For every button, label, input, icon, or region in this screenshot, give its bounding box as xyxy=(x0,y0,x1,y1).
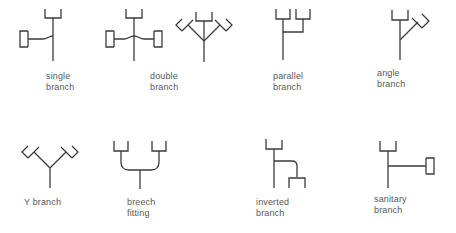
branch-arm-left xyxy=(114,36,134,39)
bell-socket-top xyxy=(380,141,396,151)
branch-arm-right xyxy=(134,36,154,39)
bell-socket-top xyxy=(126,9,142,18)
hub-left-angled-face xyxy=(28,147,39,158)
double-branch-symbol xyxy=(104,6,164,66)
hub-angled xyxy=(422,14,429,28)
parallel-branch-symbol xyxy=(272,6,316,64)
inverted-branch-symbol xyxy=(262,136,320,192)
bell-socket-right xyxy=(152,141,166,151)
bell-socket-left xyxy=(276,9,290,19)
branch-arm-left xyxy=(28,36,53,39)
branch-arm-right-angled xyxy=(204,25,220,41)
hub-right xyxy=(154,31,162,47)
branch-arm-left-angled xyxy=(34,152,50,168)
label-double-branch: double branch xyxy=(150,71,178,93)
single-branch-symbol xyxy=(18,6,70,66)
label-sanitary-branch: sanitary branch xyxy=(374,194,407,216)
y-branch-symbol xyxy=(14,138,86,190)
hub-left xyxy=(20,31,28,47)
branch-arm-angled xyxy=(400,22,418,40)
branch-arm-left-angled xyxy=(188,25,204,41)
hub-right-angled-face xyxy=(215,20,226,31)
bell-socket-top xyxy=(266,139,282,149)
riser-right xyxy=(140,151,159,170)
label-breech-fitting: breech fitting xyxy=(127,197,155,219)
label-angle-branch: angle branch xyxy=(377,68,405,90)
riser-left xyxy=(121,151,140,170)
branch-arm-right-angled xyxy=(50,152,66,168)
bell-socket-lower xyxy=(289,178,305,188)
label-inverted-branch: inverted branch xyxy=(256,197,289,219)
hub-left-angled xyxy=(22,146,28,158)
hub-right xyxy=(426,158,434,174)
bell-socket-left xyxy=(114,141,128,151)
angle-branch-symbol xyxy=(388,6,436,64)
hub-right-angled xyxy=(72,146,78,158)
sanitary-branch-symbol xyxy=(376,138,438,192)
hub-left xyxy=(106,31,114,47)
hub-right-angled xyxy=(226,19,232,31)
label-parallel-branch: parallel branch xyxy=(273,71,303,93)
double-branch-angled-symbol xyxy=(172,8,234,66)
bell-socket-top xyxy=(45,9,61,18)
label-single-branch: single branch xyxy=(46,71,74,93)
bell-socket-top xyxy=(196,12,212,21)
bell-socket-right xyxy=(296,9,310,19)
branch-arm-inverted xyxy=(274,161,297,177)
hub-left-angled xyxy=(176,19,182,31)
symbol-sheet: single branch double branch parallel bra… xyxy=(0,0,456,233)
hub-left-angled-face xyxy=(182,20,193,31)
riser-right xyxy=(283,19,303,32)
breech-fitting-symbol xyxy=(110,138,172,192)
hub-right-angled-face xyxy=(61,147,72,158)
label-y-branch: Y branch xyxy=(24,197,61,208)
bell-socket-top xyxy=(392,10,408,20)
